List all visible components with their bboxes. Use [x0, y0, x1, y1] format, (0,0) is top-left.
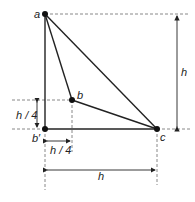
- label-a: a: [34, 8, 40, 20]
- guide-lines: [12, 14, 190, 190]
- point-a: [42, 11, 48, 17]
- label-horizontal-h: h: [98, 170, 104, 182]
- triangle-edges: [45, 14, 157, 129]
- label-vertical-quarter: h / 4: [16, 109, 37, 121]
- label-b-prime: b′: [32, 132, 41, 144]
- point-b-prime: [42, 126, 48, 132]
- label-horizontal-quarter: h / 4: [50, 144, 71, 156]
- label-vertical-h: h: [181, 66, 187, 78]
- triangle-diagram: a b b′ c h h h / 4 h / 4: [0, 0, 195, 202]
- label-c: c: [160, 131, 166, 143]
- point-b: [69, 97, 75, 103]
- label-b: b: [77, 89, 83, 101]
